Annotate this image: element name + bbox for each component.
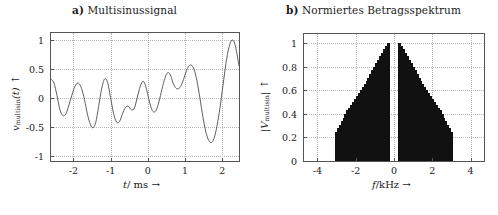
y-tick-b xyxy=(304,90,307,91)
y-tick-label-a: 0.5 xyxy=(0,64,44,75)
panel-b-title: b) Normiertes Betragsspektrum xyxy=(249,4,498,16)
x-tick-b xyxy=(471,158,472,161)
gridline-horizontal xyxy=(304,137,484,138)
y-axis-label-b-symbol: |V xyxy=(259,121,270,132)
y-tick-a xyxy=(51,40,54,41)
figure-container: a) Multisinussignal vmultisin(t) ↑ t/ ms… xyxy=(0,0,498,215)
gridline-horizontal xyxy=(304,161,484,162)
x-tick-label-b: -4 xyxy=(313,165,322,176)
y-tick-label-b: 0.2 xyxy=(249,132,297,143)
plot-area-b xyxy=(303,33,485,162)
x-tick-b xyxy=(432,158,433,161)
x-tick-b xyxy=(356,158,357,161)
y-tick-label-b: 0.4 xyxy=(249,108,297,119)
signal-trace xyxy=(51,33,239,161)
y-tick-a xyxy=(51,98,54,99)
y-tick-b xyxy=(304,137,307,138)
x-tick-a xyxy=(111,158,112,161)
y-tick-label-a: 0 xyxy=(0,93,44,104)
x-tick-label-b: 4 xyxy=(468,165,474,176)
panel-a-tag: a) xyxy=(72,4,84,16)
y-tick-label-a: -1 xyxy=(0,151,44,162)
x-axis-label-a-unit: / ms xyxy=(127,179,148,190)
x-axis-label-b: f/kHz → xyxy=(372,179,411,190)
x-axis-arrow-b: → xyxy=(402,179,410,190)
x-tick-label-b: 0 xyxy=(391,165,397,176)
x-tick-a xyxy=(73,158,74,161)
x-tick-a xyxy=(222,158,223,161)
gridline-horizontal xyxy=(304,90,484,91)
y-tick-label-b: 0.6 xyxy=(249,85,297,96)
x-axis-label-b-unit: /kHz xyxy=(376,179,399,190)
y-tick-a xyxy=(51,156,54,157)
y-tick-b xyxy=(304,43,307,44)
spectrum-bar xyxy=(450,132,453,161)
y-tick-a xyxy=(51,127,54,128)
y-tick-label-a: 1 xyxy=(0,34,44,45)
y-tick-label-a: -0.5 xyxy=(0,122,44,133)
y-axis-arrow-a: ↑ xyxy=(10,76,21,84)
panel-b-title-text: Normiertes Betragsspektrum xyxy=(302,4,461,16)
x-tick-label-a: -2 xyxy=(69,165,78,176)
x-tick-label-a: -1 xyxy=(106,165,115,176)
x-tick-label-a: 2 xyxy=(219,165,225,176)
gridline-horizontal xyxy=(304,67,484,68)
x-tick-label-a: 0 xyxy=(145,165,151,176)
panel-a-title-text: Multisinussignal xyxy=(87,4,177,16)
x-axis-label-a: t/ ms → xyxy=(123,179,160,190)
panel-a-title: a) Multisinussignal xyxy=(0,4,249,16)
x-tick-label-b: -2 xyxy=(351,165,360,176)
x-tick-label-a: 1 xyxy=(182,165,188,176)
gridline-horizontal xyxy=(304,114,484,115)
x-tick-b xyxy=(394,158,395,161)
x-tick-a xyxy=(185,158,186,161)
spectrum-bar xyxy=(387,43,390,161)
gridline-horizontal xyxy=(304,43,484,44)
panel-multisinussignal: a) Multisinussignal vmultisin(t) ↑ t/ ms… xyxy=(0,0,249,215)
y-tick-b xyxy=(304,161,307,162)
y-tick-a xyxy=(51,69,54,70)
y-tick-b xyxy=(304,67,307,68)
y-tick-label-b: 1 xyxy=(249,38,297,49)
x-axis-arrow-a: → xyxy=(151,179,159,190)
x-tick-label-b: 2 xyxy=(429,165,435,176)
y-tick-b xyxy=(304,114,307,115)
x-tick-a xyxy=(148,158,149,161)
panel-b-tag: b) xyxy=(286,4,299,16)
gridline-vertical xyxy=(317,34,318,161)
plot-area-a xyxy=(50,32,240,162)
x-tick-b xyxy=(317,158,318,161)
panel-betragsspektrum: b) Normiertes Betragsspektrum |Vmultisin… xyxy=(249,0,498,215)
gridline-vertical xyxy=(394,34,395,161)
gridline-vertical xyxy=(471,34,472,161)
y-tick-label-b: 0.8 xyxy=(249,61,297,72)
y-tick-label-b: 0 xyxy=(249,156,297,167)
